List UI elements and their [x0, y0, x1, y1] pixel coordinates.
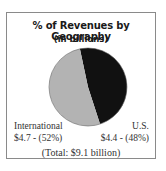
label-us: U.S. $4.4 - (48%) — [101, 120, 149, 144]
label-international: International $4.7 - (52%) — [14, 120, 63, 144]
label-us-value: $4.4 - (48%) — [101, 132, 149, 144]
chart-frame: % of Revenues by Geography (in billions)… — [6, 12, 156, 159]
label-international-name: International — [14, 120, 63, 132]
label-international-value: $4.7 - (52%) — [14, 132, 63, 144]
label-us-name: U.S. — [101, 120, 149, 132]
total-annotation: (Total: $9.1 billion) — [7, 147, 155, 158]
